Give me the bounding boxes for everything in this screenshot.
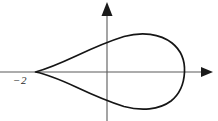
x-tick-label-minus-two: −2: [13, 74, 27, 86]
plot-canvas: [0, 0, 218, 121]
y-axis-arrow-icon: [102, 2, 113, 16]
axes-group: [0, 2, 213, 121]
math-plot-figure: −2: [0, 0, 218, 121]
x-axis-arrow-icon: [201, 67, 213, 77]
